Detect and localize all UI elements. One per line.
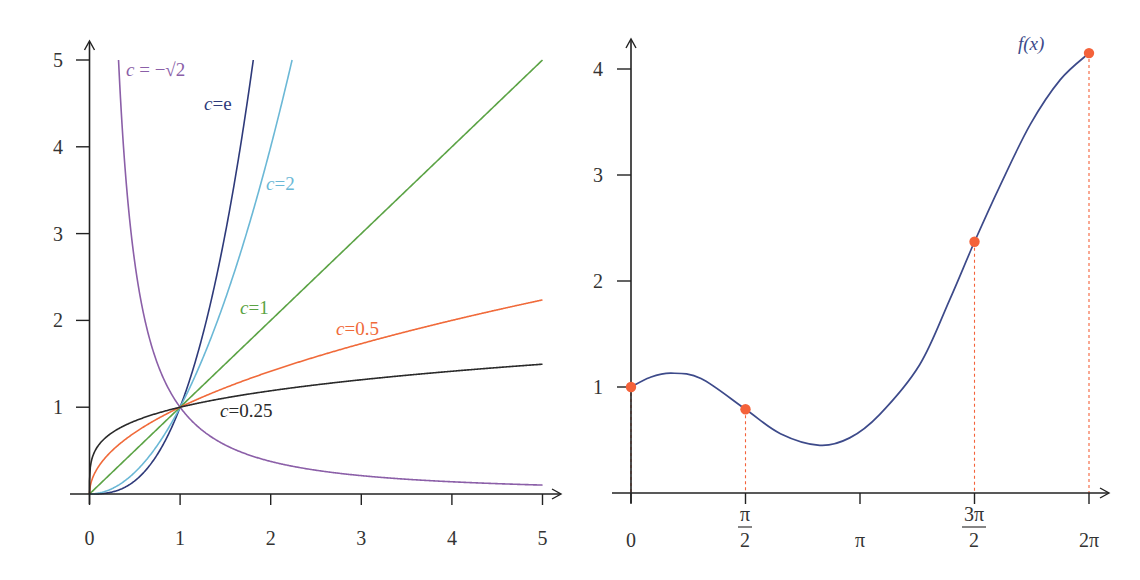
curve-label: c=e [204,93,232,114]
f-of-x-label: f(x) [1018,33,1044,55]
marked-point-dot [740,404,750,414]
curve-label: c = −√2 [126,59,185,80]
x-tick-label-pi: π [855,529,865,551]
x-tick-label: 4 [447,527,457,549]
x-tick-label: 2 [266,527,276,549]
f-of-x-label-x: (x) [1023,33,1044,55]
y-tick-label: 2 [593,270,603,292]
curve-c-2 [90,60,293,494]
left-ticks: 01234512345 [53,49,548,549]
x-tick-label: 0 [85,527,95,549]
x-tick-label-three-half-pi-denominator: 2 [969,529,979,551]
x-tick-label: 3 [356,527,366,549]
y-tick-label: 5 [53,49,63,71]
left-chart-power-functions: 01234512345 c = −√2c=ec=2c=1c=0.5c=0.25 [53,41,561,549]
curve-label: c=2 [266,173,295,194]
x-tick-label-three-half-pi-numerator: 3π [964,503,984,525]
marked-point-dot [1084,48,1094,58]
curve-label: c=1 [240,297,269,318]
curve-label: c=0.25 [220,400,272,421]
x-tick-label-half-pi-denominator: 2 [740,529,750,551]
curve-c-e [90,60,254,494]
right-x-tick-labels: 0 π 2 π 3π 2 2π [626,503,1099,551]
right-marked-points [626,48,1094,415]
right-drop-lines [631,53,1089,493]
marked-point-dot [626,382,636,392]
right-ticks: 1234 [593,58,1089,504]
curve-c-0.5 [90,300,543,494]
curve-label: c=0.5 [336,318,379,339]
curve-c-1 [90,60,543,494]
x-tick-label: 1 [175,527,185,549]
right-chart-f-of-x: 1234 0 π 2 π 3π 2 2π f(x) [593,33,1109,551]
x-tick-label-0: 0 [626,529,636,551]
f-of-x-curve [631,53,1089,445]
x-tick-label: 5 [538,527,548,549]
y-tick-label: 4 [593,58,603,80]
y-tick-label: 3 [53,223,63,245]
x-tick-label-half-pi-numerator: π [740,503,750,525]
y-tick-label: 3 [593,164,603,186]
x-tick-label-two-pi: 2π [1079,529,1099,551]
marked-point-dot [969,237,979,247]
curve-c-2 [119,60,543,485]
left-curves [90,60,543,494]
y-tick-label: 2 [53,309,63,331]
y-tick-label: 1 [593,376,603,398]
left-curve-labels: c = −√2c=ec=2c=1c=0.5c=0.25 [126,59,379,421]
y-tick-label: 1 [53,396,63,418]
y-tick-label: 4 [53,136,63,158]
figure: 01234512345 c = −√2c=ec=2c=1c=0.5c=0.25 … [0,0,1140,580]
